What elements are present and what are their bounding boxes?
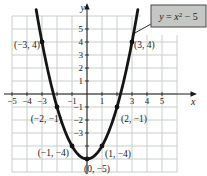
graph-canvas: −5−4−3−1134554321−1−2−3xyy = x2 − 5(−3, … <box>0 0 207 176</box>
data-point <box>85 157 90 162</box>
y-axis-arrow-icon <box>84 3 89 10</box>
y-tick-label: −3 <box>73 128 83 138</box>
point-label: (2, −1) <box>121 114 147 125</box>
point-label: (3, 4) <box>134 40 155 51</box>
x-tick-label: −3 <box>37 96 47 106</box>
point-label: (−2, −1) <box>31 114 62 125</box>
point-label: (0, −5) <box>84 164 110 175</box>
parabola-figure: −5−4−3−1134554321−1−2−3xyy = x2 − 5(−3, … <box>0 0 207 176</box>
x-tick-label: 4 <box>145 96 150 106</box>
x-tick-label: −5 <box>7 96 17 106</box>
x-tick-label: 3 <box>130 96 135 106</box>
y-tick-label: 4 <box>79 37 84 47</box>
data-point <box>70 144 75 149</box>
x-axis-label: x <box>190 96 196 107</box>
y-tick-label: 5 <box>79 24 84 34</box>
x-tick-label: 5 <box>160 96 165 106</box>
equation-label: y = x2 − 5 <box>158 11 198 23</box>
y-tick-label: 2 <box>79 63 84 73</box>
data-point <box>55 105 60 110</box>
y-tick-label: −2 <box>73 115 83 125</box>
data-point <box>115 105 120 110</box>
x-tick-label: 1 <box>100 96 105 106</box>
point-label: (−3, 4) <box>14 40 40 51</box>
y-tick-label: 3 <box>79 50 84 60</box>
point-label: (1, −4) <box>105 149 131 160</box>
y-axis-label: y <box>80 2 86 13</box>
x-tick-label: −4 <box>22 96 32 106</box>
y-tick-label: 1 <box>79 76 84 86</box>
y-tick-label: −1 <box>73 102 83 112</box>
data-point <box>40 40 45 45</box>
data-point <box>100 144 105 149</box>
point-label: (−1, −4) <box>38 148 69 159</box>
